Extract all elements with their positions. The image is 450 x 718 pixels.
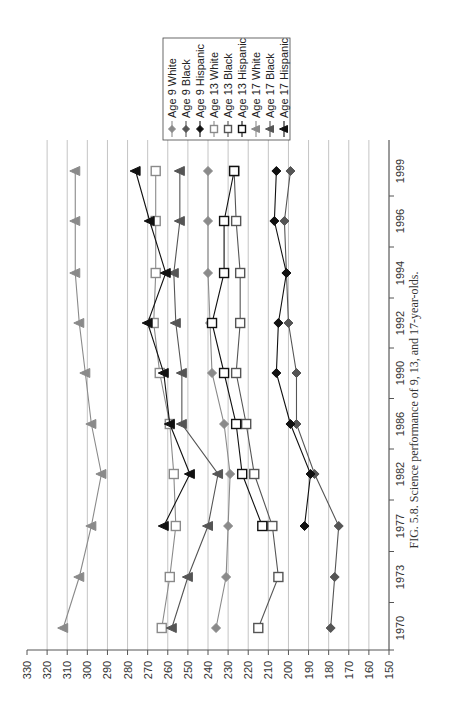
year-axis: 1970197319771982198619901992199419961999 [389, 140, 406, 650]
legend-label: Age 9 White [166, 58, 178, 118]
series-age-17-white [58, 167, 106, 633]
science-performance-chart: 3303203103002902802702602502402302202102… [0, 0, 450, 718]
series-age-13-black [230, 167, 283, 633]
score-tick-label: 220 [242, 661, 254, 679]
score-tick-label: 180 [323, 661, 335, 679]
legend-label: Age 17 Black [264, 53, 276, 118]
score-tick-label: 200 [282, 661, 294, 679]
score-tick-label: 240 [202, 661, 214, 679]
score-tick-label: 230 [222, 661, 234, 679]
score-tick-label: 250 [182, 661, 194, 679]
year-tick-label: 1999 [394, 159, 406, 183]
score-tick-label: 320 [41, 661, 53, 679]
score-axis: 3303203103002902802702602502402302202102… [21, 650, 395, 679]
legend-label: Age 17 White [250, 52, 262, 118]
score-tick-label: 160 [363, 661, 375, 679]
year-tick-label: 1970 [394, 616, 406, 640]
score-tick-label: 210 [262, 661, 274, 679]
score-tick-label: 260 [162, 661, 174, 679]
legend-label: Age 13 Black [222, 53, 234, 118]
score-tick-label: 300 [81, 661, 93, 679]
year-tick-label: 1986 [394, 412, 406, 436]
series-age-17-black [166, 167, 222, 633]
legend: Age 9 WhiteAge 9 BlackAge 9 HispanicAge … [163, 37, 290, 140]
year-tick-label: 1996 [394, 209, 406, 233]
legend-label: Age 9 Hispanic [194, 44, 206, 118]
year-tick-label: 1982 [394, 462, 406, 486]
year-tick-label: 1990 [394, 361, 406, 385]
score-tick-label: 330 [21, 661, 33, 679]
legend-label: Age 13 Hispanic [236, 37, 248, 118]
legend-label: Age 17 Hispanic [278, 37, 290, 118]
score-tick-label: 170 [343, 661, 355, 679]
score-tick-label: 280 [122, 661, 134, 679]
legend-label: Age 13 White [208, 52, 220, 118]
figure-caption: FIG. 5.8. Science performance of 9, 13, … [407, 271, 421, 548]
year-tick-label: 1994 [394, 261, 406, 285]
score-tick-label: 190 [303, 661, 315, 679]
legend-label: Age 9 Black [180, 59, 192, 118]
score-tick-label: 310 [61, 661, 73, 679]
score-tick-label: 270 [142, 661, 154, 679]
year-tick-label: 1973 [394, 565, 406, 589]
score-tick-label: 290 [101, 661, 113, 679]
year-tick-label: 1992 [394, 311, 406, 335]
data-series [58, 167, 344, 633]
score-tick-label: 150 [383, 661, 395, 679]
year-tick-label: 1977 [394, 514, 406, 538]
series-age-9-black [280, 167, 343, 633]
gridlines [47, 140, 389, 650]
